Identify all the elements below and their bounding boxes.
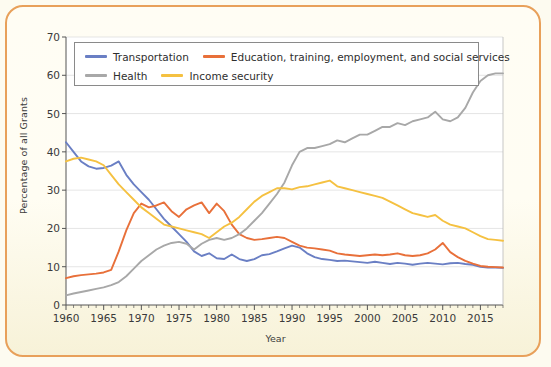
x-tick-label: 1975 xyxy=(159,312,199,324)
x-tick-label: 1985 xyxy=(234,312,274,324)
y-tick-label: 30 xyxy=(30,184,60,196)
x-tick-label: 1960 xyxy=(46,312,86,324)
x-tick-label: 1995 xyxy=(310,312,350,324)
legend-swatch-transportation xyxy=(85,55,107,58)
line-chart-figure: Percentage of all Grants Year 0102030405… xyxy=(0,0,551,367)
y-tick-label: 60 xyxy=(30,69,60,81)
y-axis-label: Percentage of all Grants xyxy=(18,71,29,241)
legend-label-income-security: Income security xyxy=(189,70,273,82)
x-tick-label: 1965 xyxy=(84,312,124,324)
x-tick-label: 2010 xyxy=(423,312,463,324)
legend-row-1: Transportation Education, training, empl… xyxy=(85,47,472,66)
y-tick-label: 10 xyxy=(30,261,60,273)
x-tick-label: 2005 xyxy=(385,312,425,324)
x-tick-label: 1990 xyxy=(272,312,312,324)
legend-swatch-education xyxy=(203,55,225,58)
x-tick-label: 1980 xyxy=(197,312,237,324)
legend-item-income-security[interactable]: Income security xyxy=(161,70,273,82)
chart-legend: Transportation Education, training, empl… xyxy=(74,42,479,86)
x-tick-label: 1970 xyxy=(121,312,161,324)
legend-label-health: Health xyxy=(113,70,147,82)
legend-label-education: Education, training, employment, and soc… xyxy=(231,51,510,63)
legend-label-transportation: Transportation xyxy=(113,51,189,63)
y-tick-label: 0 xyxy=(30,299,60,311)
legend-row-2: Health Income security xyxy=(85,66,472,85)
y-tick-label: 70 xyxy=(30,31,60,43)
x-tick-label: 2015 xyxy=(460,312,500,324)
y-tick-label: 40 xyxy=(30,146,60,158)
y-tick-label: 50 xyxy=(30,108,60,120)
y-tick-label: 20 xyxy=(30,222,60,234)
legend-swatch-income-security xyxy=(161,74,183,77)
legend-item-transportation[interactable]: Transportation xyxy=(85,51,189,63)
x-tick-label: 2000 xyxy=(347,312,387,324)
legend-swatch-health xyxy=(85,74,107,77)
x-axis-label: Year xyxy=(0,333,551,344)
legend-item-education[interactable]: Education, training, employment, and soc… xyxy=(203,51,510,63)
legend-item-health[interactable]: Health xyxy=(85,70,147,82)
